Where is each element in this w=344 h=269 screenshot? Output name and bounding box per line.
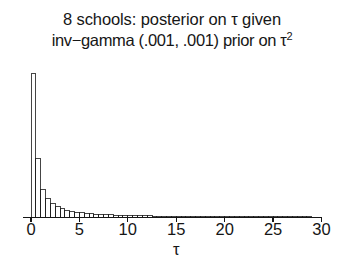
histogram-bar xyxy=(60,209,65,218)
figure-title-line-2: inv−gamma (.001, .001) prior on τ2 xyxy=(0,30,344,51)
x-axis-tick-label: 15 xyxy=(167,220,185,239)
histogram-bars xyxy=(31,73,322,218)
histogram-bar xyxy=(36,159,41,218)
histogram-bar xyxy=(50,203,55,217)
histogram-bar xyxy=(46,199,51,218)
histogram-bar xyxy=(65,210,70,217)
figure-title-line-2-text: inv−gamma (.001, .001) prior on τ xyxy=(52,31,287,49)
histogram-bar xyxy=(79,213,84,218)
x-axis-tick-label: 10 xyxy=(119,220,137,239)
x-axis-tick-label: 5 xyxy=(75,220,84,239)
histogram-bar xyxy=(55,207,60,218)
x-axis-tick-label: 0 xyxy=(26,220,35,239)
figure-title: 8 schools: posterior on τ given inv−gamm… xyxy=(0,9,344,51)
figure-title-exponent: 2 xyxy=(287,30,293,42)
histogram-bar xyxy=(31,73,36,218)
histogram-bar xyxy=(70,211,75,217)
x-axis-tick-label: 30 xyxy=(312,220,330,239)
histogram-bar xyxy=(41,189,46,217)
figure-title-line-1: 8 schools: posterior on τ given xyxy=(0,9,344,30)
x-axis-tick-label: 20 xyxy=(216,220,234,239)
histogram-svg xyxy=(0,60,344,225)
x-axis-tick-label: 25 xyxy=(264,220,282,239)
histogram-bar xyxy=(75,212,80,217)
histogram-figure: 8 schools: posterior on τ given inv−gamm… xyxy=(0,0,344,269)
x-axis-title: τ xyxy=(173,240,180,259)
plot-area xyxy=(0,60,344,225)
x-axis-tick-labels: 051015202530 xyxy=(0,220,344,242)
